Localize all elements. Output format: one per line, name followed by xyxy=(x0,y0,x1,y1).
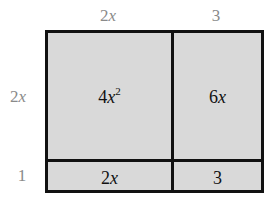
cell-coef: 2 xyxy=(101,168,110,188)
side-label-1: 1 xyxy=(4,167,40,184)
cell-3: 3 xyxy=(174,169,261,187)
cell-value: 3 xyxy=(213,168,222,188)
cell-coef: 4 xyxy=(98,87,107,107)
vertical-divider xyxy=(171,33,174,190)
side-label-2x-text: 2x xyxy=(10,87,26,106)
top-label-2x: 2x xyxy=(88,7,128,24)
side-label-2x: 2x xyxy=(0,88,36,105)
cell-exp: 2 xyxy=(115,85,121,97)
top-label-2x-text: 2x xyxy=(100,6,116,25)
cell-2x: 2x xyxy=(48,169,171,187)
cell-4x-squared: 4x2 xyxy=(48,88,171,106)
cell-coef: 6 xyxy=(209,87,218,107)
top-label-3-text: 3 xyxy=(212,6,221,25)
horizontal-divider xyxy=(48,159,261,162)
top-label-3: 3 xyxy=(196,7,236,24)
cell-var: x xyxy=(218,87,226,107)
area-model-box: 4x2 6x 2x 3 xyxy=(45,30,264,193)
side-label-1-text: 1 xyxy=(18,166,27,185)
cell-6x: 6x xyxy=(174,88,261,106)
cell-var: x xyxy=(110,168,118,188)
